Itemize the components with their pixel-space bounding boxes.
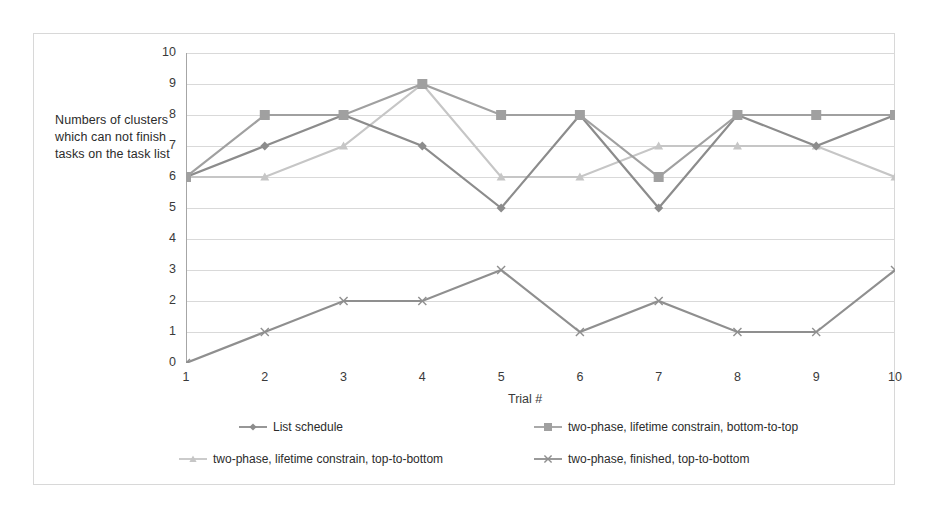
legend-item[interactable]: two-phase, lifetime constrain, top-to-bo…: [178, 452, 443, 466]
y-tick-label: 4: [150, 231, 176, 245]
legend-label: two-phase, lifetime constrain, bottom-to…: [568, 420, 798, 434]
data-point-square: [186, 172, 191, 182]
x-tick-label: 2: [250, 370, 280, 384]
data-point-square: [890, 110, 895, 120]
chart-page: Numbers of clusters which can not finish…: [0, 0, 929, 527]
x-tick-label: 5: [486, 370, 516, 384]
chart-legend: List scheduletwo-phase, lifetime constra…: [33, 412, 895, 482]
legend-item[interactable]: two-phase, lifetime constrain, bottom-to…: [533, 420, 798, 434]
data-point-square: [732, 110, 742, 120]
legend-marker-square-icon: [533, 421, 563, 433]
data-point-square: [811, 110, 821, 120]
y-tick-label: 5: [150, 200, 176, 214]
legend-label: two-phase, finished, top-to-bottom: [568, 452, 749, 466]
data-point-square: [339, 110, 349, 120]
plot-svg: [186, 53, 895, 363]
plot-area: [186, 53, 895, 363]
x-axis-title: Trial #: [508, 392, 542, 406]
series-2: [186, 80, 895, 181]
x-tick-label: 6: [565, 370, 595, 384]
data-point-square: [417, 79, 427, 89]
y-tick-label: 8: [150, 107, 176, 121]
data-point-square: [496, 110, 506, 120]
x-tick-label: 4: [407, 370, 437, 384]
x-tick-label: 3: [329, 370, 359, 384]
series-3: [186, 266, 895, 363]
y-tick-label: 2: [150, 293, 176, 307]
x-tick-label: 8: [722, 370, 752, 384]
y-tick-label: 1: [150, 324, 176, 338]
data-point-diamond: [249, 423, 256, 430]
legend-marker-diamond-icon: [238, 421, 268, 433]
y-tick-label: 6: [150, 169, 176, 183]
data-point-square: [575, 110, 585, 120]
series-line: [186, 270, 895, 363]
legend-item[interactable]: two-phase, finished, top-to-bottom: [533, 452, 749, 466]
legend-marker-x-icon: [533, 453, 563, 465]
data-point-square: [260, 110, 270, 120]
x-tick-label: 9: [801, 370, 831, 384]
y-tick-label: 7: [150, 138, 176, 152]
y-tick-label: 0: [150, 355, 176, 369]
y-tick-label: 10: [150, 45, 176, 59]
x-tick-label: 10: [880, 370, 910, 384]
legend-item[interactable]: List schedule: [238, 420, 343, 434]
data-point-diamond: [260, 142, 269, 151]
y-tick-label: 3: [150, 262, 176, 276]
data-point-square: [654, 172, 664, 182]
x-tick-label: 1: [171, 370, 201, 384]
legend-label: two-phase, lifetime constrain, top-to-bo…: [213, 452, 443, 466]
series-line: [186, 115, 895, 208]
legend-label: List schedule: [273, 420, 343, 434]
y-tick-label: 9: [150, 76, 176, 90]
x-tick-label: 7: [644, 370, 674, 384]
legend-marker-triangle-icon: [178, 453, 208, 465]
series-0: [186, 111, 895, 213]
data-point-square: [544, 423, 552, 431]
